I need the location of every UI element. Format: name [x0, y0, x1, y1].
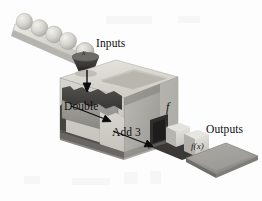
label-outputs: Outputs — [206, 124, 243, 136]
label-output-variable: f(x) — [191, 142, 204, 151]
label-function-name: f — [166, 101, 169, 113]
function-machine-figure: Inputs Outputs Double Add 3 f x f(x) — [0, 0, 262, 201]
label-inputs: Inputs — [96, 38, 125, 50]
label-input-variable: x — [82, 49, 86, 57]
label-double: Double — [64, 101, 98, 113]
function-machine-illustration — [0, 0, 262, 201]
label-add-three: Add 3 — [112, 127, 141, 139]
